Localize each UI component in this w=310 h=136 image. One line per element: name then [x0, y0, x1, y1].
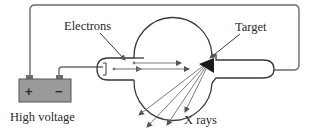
minus-sign: −: [55, 84, 63, 99]
electrons-leader: [100, 33, 125, 60]
xrays-label: X rays: [184, 113, 217, 127]
circuit-wire: [30, 5, 299, 75]
xray-tube-diagram: + − High voltage Electrons Target X: [0, 0, 310, 136]
target-anode: [199, 58, 214, 73]
cathode-filament: [103, 63, 106, 75]
electrons-label: Electrons: [64, 19, 111, 33]
battery-terminal-negative: [56, 75, 63, 79]
electron-beam: [113, 62, 189, 71]
plus-sign: +: [25, 84, 33, 99]
target-label: Target: [235, 20, 267, 34]
battery-terminal-positive: [26, 75, 33, 79]
high-voltage-battery: + −: [19, 75, 71, 102]
high-voltage-label: High voltage: [10, 110, 75, 124]
target-leader: [210, 34, 240, 58]
